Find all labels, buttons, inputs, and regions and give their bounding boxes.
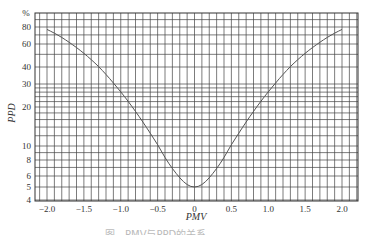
y-tick-label: 30	[22, 79, 32, 89]
x-tick-label: −1.5	[76, 204, 93, 214]
y-axis-title: PPD	[6, 103, 17, 124]
pmv-ppd-chart: −2.0−1.5−1.0−0.500.51.01.52.080604030201…	[0, 0, 367, 235]
axis-ticks: −2.0−1.5−1.0−0.500.51.01.52.080604030201…	[22, 22, 348, 214]
y-tick-label: 20	[22, 102, 32, 112]
y-unit-label: %	[22, 8, 30, 18]
y-tick-label: 80	[22, 22, 32, 32]
x-tick-label: 1.5	[300, 204, 312, 214]
y-tick-label: 4	[27, 195, 32, 205]
grid	[35, 13, 358, 201]
x-tick-label: −0.5	[149, 204, 166, 214]
x-tick-label: 0.5	[226, 204, 238, 214]
x-tick-label: 2.0	[336, 204, 348, 214]
figure-caption: 图 PMV与PPD的关系	[105, 226, 265, 235]
x-tick-label: 1.0	[263, 204, 275, 214]
y-tick-label: 8	[27, 155, 32, 165]
y-tick-label: 40	[22, 62, 32, 72]
y-tick-label: 10	[22, 141, 32, 151]
y-tick-label: 6	[27, 171, 32, 181]
y-tick-label: 60	[22, 39, 32, 49]
x-axis-title: PMV	[185, 211, 208, 222]
y-tick-label: 5	[27, 182, 32, 192]
x-tick-label: −1.0	[113, 204, 130, 214]
x-tick-label: −2.0	[39, 204, 56, 214]
